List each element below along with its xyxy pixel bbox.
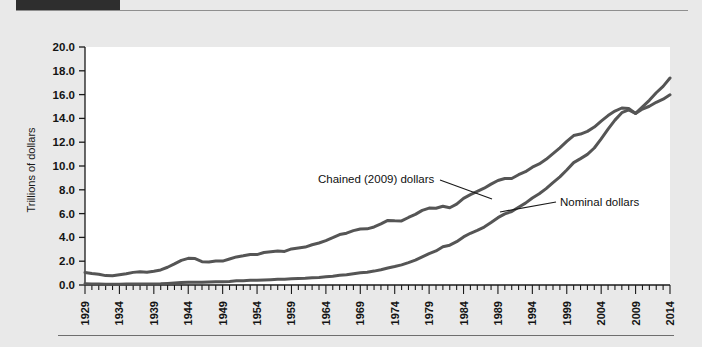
y-tick-label: 8.0 [59,184,75,196]
x-tick-label: 2009 [630,301,642,325]
y-axis-ticks [79,47,85,285]
chart-page: 0.02.04.06.08.010.012.014.016.018.020.0 … [0,0,702,347]
y-tick-label: 6.0 [59,208,75,220]
x-tick-label: 1974 [389,300,401,325]
y-tick-label: 4.0 [59,231,75,243]
x-axis-ticks [85,285,670,294]
x-tick-label: 1979 [423,301,435,325]
x-tick-label: 1959 [285,301,297,325]
y-tick-label: 10.0 [53,160,75,172]
y-tick-label: 12.0 [53,136,75,148]
annotation-label-chained-2009-dollars: Chained (2009) dollars [318,173,435,185]
x-tick-label: 1994 [526,300,538,325]
y-axis-title: Trillions of dollars [25,127,37,213]
x-tick-label: 1949 [217,301,229,325]
x-tick-label: 1964 [320,300,332,325]
y-tick-label: 2.0 [59,255,75,267]
x-tick-label: 1939 [148,301,160,325]
annotation-label-nominal-dollars: Nominal dollars [560,196,640,208]
y-tick-label: 18.0 [53,65,75,77]
x-tick-label: 2004 [595,300,607,325]
x-tick-label: 1954 [251,300,263,325]
x-tick-label: 2014 [664,300,676,325]
chart-svg: 0.02.04.06.08.010.012.014.016.018.020.0 … [0,0,702,347]
x-axis-tick-labels: 1929193419391944194919541959196419691974… [79,300,676,325]
y-tick-label: 16.0 [53,89,75,101]
x-tick-label: 1934 [113,300,125,325]
x-tick-label: 1984 [458,300,470,325]
chart-figure: 0.02.04.06.08.010.012.014.016.018.020.0 … [0,0,702,347]
x-tick-label: 1969 [354,301,366,325]
x-tick-label: 1944 [182,300,194,325]
y-tick-label: 14.0 [53,112,75,124]
x-tick-label: 1999 [561,301,573,325]
x-tick-label: 1989 [492,301,504,325]
y-axis-tick-labels: 0.02.04.06.08.010.012.014.016.018.020.0 [53,41,75,291]
x-tick-label: 1929 [79,301,91,325]
y-tick-label: 0.0 [59,279,75,291]
plot-area-background [85,47,670,285]
y-tick-label: 20.0 [53,41,75,53]
